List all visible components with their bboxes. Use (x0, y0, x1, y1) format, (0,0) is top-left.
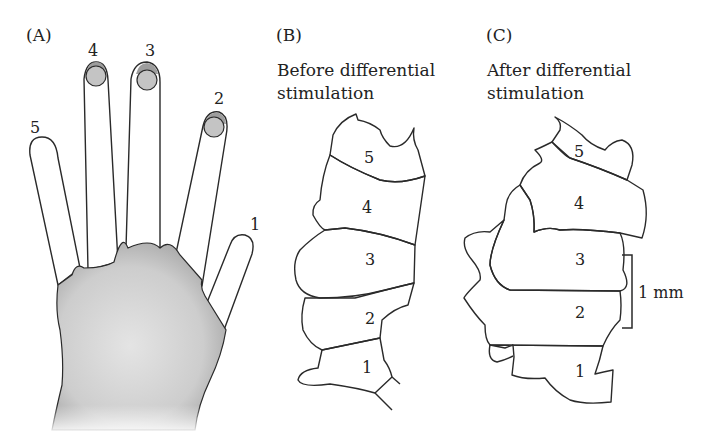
region-c-label-3: 3 (575, 250, 585, 269)
region-b-5 (330, 114, 425, 182)
region-b-label-2: 2 (365, 309, 375, 328)
panel-c-title-line2: stimulation (487, 83, 584, 103)
boundary-tail (375, 393, 392, 410)
region-b-label-3: 3 (365, 250, 375, 269)
hand-illustration: 5 4 3 2 1 (30, 41, 260, 435)
panel-c: (C) After differential stimulation 5 4 3… (464, 25, 684, 403)
finger-label-2: 2 (214, 89, 224, 108)
finger-3 (126, 62, 160, 250)
region-c-label-5: 5 (574, 142, 584, 161)
wrist-fade (40, 405, 240, 435)
region-c-label-2: 2 (575, 303, 585, 322)
region-c-label-4: 4 (574, 194, 584, 213)
finger-4 (84, 62, 118, 270)
panel-b-letter: (B) (276, 25, 302, 45)
finger-label-3: 3 (145, 41, 155, 60)
tip-circle-4 (86, 66, 106, 86)
cortical-map-after: 5 4 3 2 1 (464, 117, 646, 403)
region-c-5 (552, 117, 633, 180)
panel-b-title-line2: stimulation (277, 83, 374, 103)
tip-circle-3 (137, 70, 157, 90)
scale-label: 1 mm (638, 283, 684, 302)
region-c-2 (464, 220, 621, 346)
tip-circle-2 (204, 117, 224, 137)
panel-c-letter: (C) (486, 25, 512, 45)
panel-c-title-line1: After differential (486, 60, 631, 80)
boundary-tail (392, 377, 400, 384)
panel-b: (B) Before differential stimulation 5 4 … (276, 25, 435, 410)
palm (52, 242, 226, 430)
region-b-1 (298, 338, 392, 393)
panel-a-letter: (A) (26, 25, 52, 45)
panel-b-title-line1: Before differential (277, 60, 435, 80)
region-b-label-1: 1 (362, 358, 372, 377)
region-c-3 (490, 185, 627, 291)
finger-label-5: 5 (30, 118, 40, 137)
region-b-2 (302, 283, 414, 350)
panel-a: (A) 5 4 3 2 1 (26, 25, 260, 435)
cortical-map-before: 5 4 3 2 1 (295, 114, 425, 410)
finger-label-1: 1 (250, 215, 260, 234)
region-c-label-1: 1 (575, 362, 585, 381)
region-b-label-4: 4 (362, 198, 372, 217)
scale-bar: 1 mm (622, 255, 684, 328)
finger-label-4: 4 (88, 41, 98, 60)
figure-canvas: (A) 5 4 3 2 1 (0, 0, 721, 447)
region-b-label-5: 5 (364, 148, 374, 167)
region-c-1 (490, 345, 613, 403)
finger-5 (30, 137, 80, 285)
